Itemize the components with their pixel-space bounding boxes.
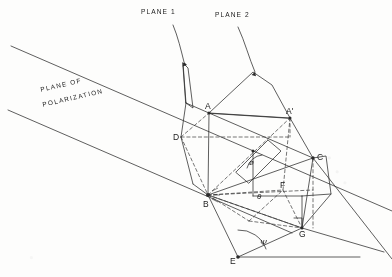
point-label-D: D [173, 133, 179, 142]
diagram-linework [0, 0, 392, 277]
segment-A-C [209, 113, 313, 158]
point-label-E: E [230, 257, 236, 266]
extension-C-out [313, 158, 392, 259]
point-label-B: B [203, 200, 209, 209]
dashed-low-F [249, 190, 283, 221]
segment-B-C [208, 158, 313, 195]
point-label-F: F [280, 181, 285, 190]
plane-1-title: PLANE 1 [141, 9, 176, 16]
point-label-G: G [299, 230, 306, 239]
segment-A-Ap [209, 113, 290, 118]
point-label-A: A [205, 102, 211, 111]
angle-label-phi: ø [249, 159, 254, 167]
plane-2-outline [209, 72, 290, 118]
segment-E-G [238, 228, 302, 257]
construction-lines [181, 113, 313, 228]
dashed-low-left [249, 221, 302, 228]
extension-G-out [302, 228, 384, 252]
right-angle-G [294, 218, 302, 226]
plane-2-leader [238, 27, 255, 72]
segment-Ap-C [290, 118, 313, 158]
plane-2-title: PLANE 2 [215, 12, 250, 19]
dashed-B-Ap [208, 118, 290, 195]
dashed-B-G [208, 195, 302, 228]
angle-label-theta: θ [257, 193, 261, 201]
polarization-band [8, 46, 392, 233]
segment-AB [208, 113, 209, 195]
polarization-lower-edge [8, 110, 292, 233]
tick-marks [294, 218, 302, 226]
main-solid-edges [208, 113, 313, 257]
plane-1-outline [183, 63, 193, 108]
angle-label-psi: Ψ [260, 239, 267, 247]
segment-D-down [181, 137, 193, 184]
right-flap [302, 156, 331, 228]
front-lower-face [253, 151, 302, 196]
point-label-C: C [317, 153, 323, 162]
flap-inner-edge [302, 194, 331, 196]
diagram-canvas: PLANE 1 PLANE 2 PLANE OF POLARIZATION A … [0, 0, 392, 277]
plane-1-leader [173, 25, 184, 62]
dashed-D-A [181, 113, 209, 137]
point-label-Aprime: A' [286, 107, 294, 116]
